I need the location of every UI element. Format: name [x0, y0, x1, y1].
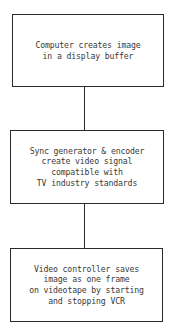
- step-2-label: Sync generator & encoder create video si…: [30, 146, 145, 188]
- flowchart-step-sync-generator-encoder: Sync generator & encoder create video si…: [10, 130, 164, 204]
- connector-line-step1-to-step2: [84, 87, 85, 130]
- step-1-label: Computer creates image in a display buff…: [35, 40, 140, 61]
- flowchart-step-computer-creates-image: Computer creates image in a display buff…: [12, 14, 164, 87]
- flowchart-step-video-controller-saves: Video controller saves image as one fram…: [10, 248, 163, 322]
- connector-line-step2-to-step3: [84, 204, 85, 248]
- step-3-label: Video controller saves image as one fram…: [29, 264, 144, 306]
